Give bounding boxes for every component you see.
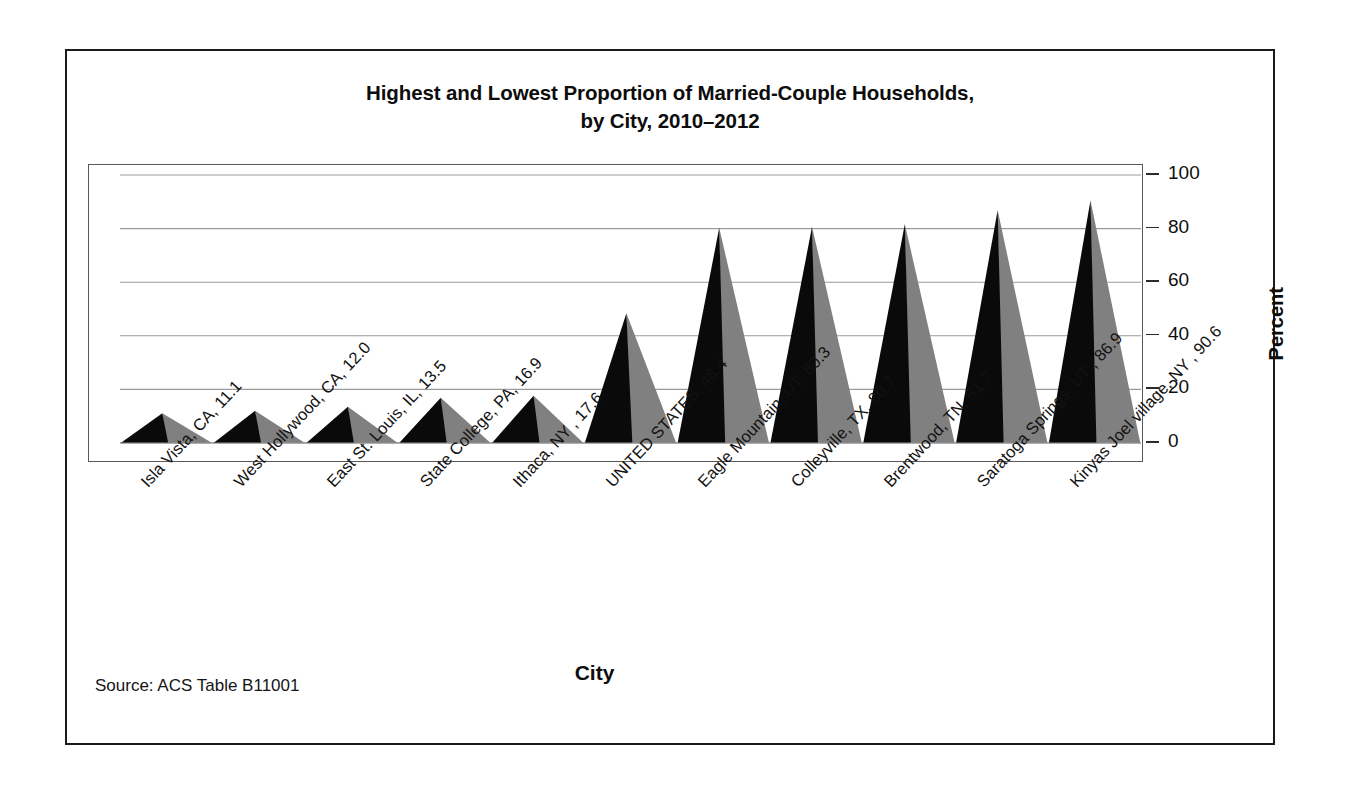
cone-bar bbox=[863, 224, 954, 443]
chart-plot bbox=[89, 165, 1142, 461]
y-axis-title: Percent bbox=[1265, 287, 1288, 360]
source-note: Source: ACS Table B11001 bbox=[95, 676, 299, 696]
y-tick-label-80: 80 bbox=[1168, 216, 1189, 238]
y-tick-label-60: 60 bbox=[1168, 269, 1189, 291]
chart-title-line-2: by City, 2010–2012 bbox=[67, 107, 1273, 135]
cone-front-face bbox=[121, 413, 169, 443]
chart-title: Highest and Lowest Proportion of Married… bbox=[67, 79, 1273, 136]
y-tick-label-100: 100 bbox=[1168, 162, 1200, 184]
figure-page: Highest and Lowest Proportion of Married… bbox=[0, 0, 1346, 787]
y-tick-mark-100 bbox=[1146, 173, 1159, 175]
y-tick-mark-40 bbox=[1146, 334, 1159, 336]
chart-title-line-1: Highest and Lowest Proportion of Married… bbox=[366, 81, 974, 104]
figure-border: Highest and Lowest Proportion of Married… bbox=[65, 49, 1275, 745]
cone-front-face bbox=[585, 313, 633, 443]
y-tick-mark-80 bbox=[1146, 227, 1159, 229]
cone-bars bbox=[121, 200, 1141, 443]
y-tick-mark-60 bbox=[1146, 280, 1159, 282]
y-tick-label-40: 40 bbox=[1168, 323, 1189, 345]
plot-area-frame bbox=[88, 164, 1143, 462]
y-tick-label-0: 0 bbox=[1168, 430, 1179, 452]
y-tick-mark-0 bbox=[1146, 441, 1159, 443]
